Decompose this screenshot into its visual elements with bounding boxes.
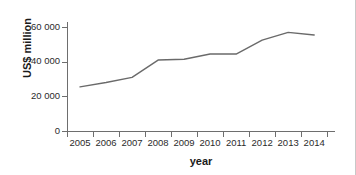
x-axis-title: year: [67, 155, 335, 167]
chart-screenshot: US$ million 020 00040 00060 000 20052006…: [0, 0, 356, 175]
data-series-line: [80, 32, 314, 86]
line-chart: US$ million 020 00040 00060 000 20052006…: [0, 0, 350, 175]
plot-svg: [0, 0, 356, 175]
